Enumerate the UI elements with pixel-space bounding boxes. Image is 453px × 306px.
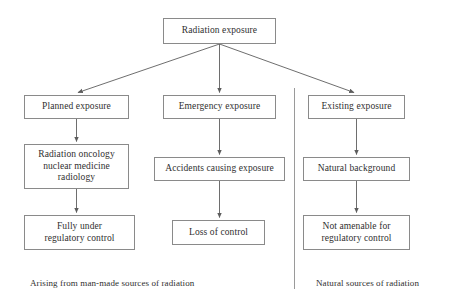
node-loss-of-control: Loss of control	[172, 220, 265, 245]
node-existing-exposure: Existing exposure	[308, 95, 405, 119]
node-fully-under-regulatory-control: Fully under regulatory control	[24, 215, 135, 250]
node-planned-exposure: Planned exposure	[24, 95, 129, 119]
caption-man-made-sources: Arising from man-made sources of radiati…	[30, 278, 194, 288]
caption-natural-sources: Natural sources of radiation	[316, 278, 419, 288]
node-not-amenable-regulatory-control: Not amenable for regulatory control	[303, 215, 410, 250]
node-radiation-exposure: Radiation exposure	[163, 18, 276, 44]
node-accidents-causing-exposure: Accidents causing exposure	[154, 157, 285, 181]
node-natural-background: Natural background	[303, 157, 410, 181]
node-radiation-oncology: Radiation oncology nuclear medicine radi…	[24, 144, 129, 189]
connector-root-to-existing	[220, 44, 355, 93]
connector-root-to-planned	[78, 44, 220, 93]
node-emergency-exposure: Emergency exposure	[163, 95, 276, 119]
flowchart-canvas: Radiation exposure Planned exposure Emer…	[0, 0, 453, 306]
